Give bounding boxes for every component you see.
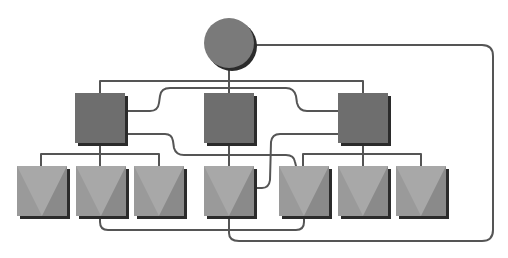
edge-leaf-2-leaf-5 (100, 215, 304, 230)
root-node-circle (204, 18, 254, 68)
mid-node-3[interactable] (338, 93, 391, 146)
leaf-4[interactable] (204, 166, 257, 219)
edge-mid-1-leaves (41, 143, 159, 166)
mid-node-square (338, 93, 388, 143)
mid-nodes (75, 93, 391, 146)
leaf-5[interactable] (279, 166, 332, 219)
network-diagram (0, 0, 508, 258)
mid-node-1[interactable] (75, 93, 128, 146)
leaf-3[interactable] (134, 166, 187, 219)
leaf-7[interactable] (396, 166, 449, 219)
mid-node-2[interactable] (204, 93, 257, 146)
leaf-nodes (17, 166, 449, 219)
edge-mid-3-leaves (303, 143, 421, 166)
mid-node-square (75, 93, 125, 143)
leaf-2[interactable] (76, 166, 129, 219)
leaf-1[interactable] (17, 166, 70, 219)
root-node[interactable] (204, 18, 257, 71)
edge-marker (0, 44, 3, 52)
mid-node-square (204, 93, 254, 143)
leaf-6[interactable] (338, 166, 391, 219)
